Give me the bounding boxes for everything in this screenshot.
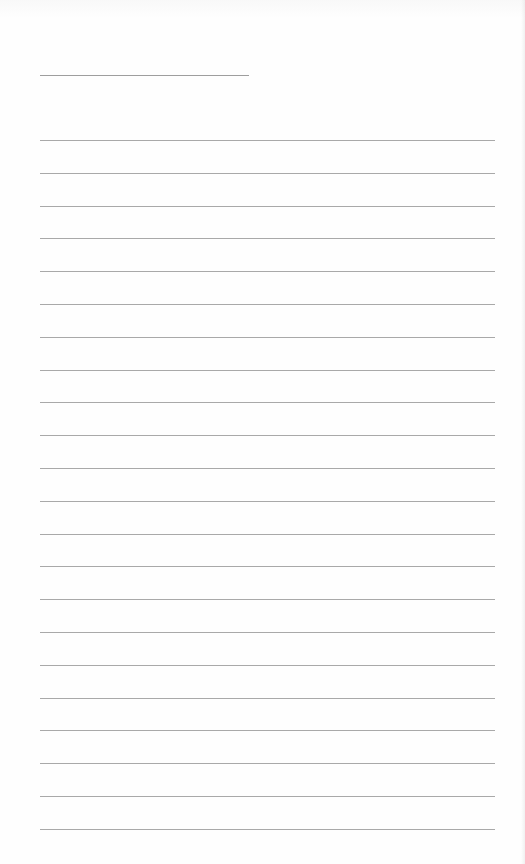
ruled-line — [40, 271, 495, 272]
note-line-field[interactable] — [40, 151, 495, 173]
note-line-field[interactable] — [40, 610, 495, 632]
note-line-field[interactable] — [40, 479, 495, 501]
ruled-line — [40, 501, 495, 502]
note-line-field[interactable] — [40, 544, 495, 566]
note-line-field[interactable] — [40, 315, 495, 337]
note-line-field[interactable] — [40, 380, 495, 402]
note-line-field[interactable] — [40, 676, 495, 698]
ruled-line — [40, 238, 495, 239]
ruled-line — [40, 566, 495, 567]
ruled-line — [40, 206, 495, 207]
ruled-line — [40, 435, 495, 436]
notepad-page — [0, 0, 525, 864]
note-line-field[interactable] — [40, 577, 495, 599]
ruled-line — [40, 665, 495, 666]
note-line-field[interactable] — [40, 512, 495, 534]
note-line-field[interactable] — [40, 282, 495, 304]
note-line-field[interactable] — [40, 413, 495, 435]
ruled-line — [40, 796, 495, 797]
ruled-line — [40, 173, 495, 174]
note-line-field[interactable] — [40, 708, 495, 730]
note-line-field[interactable] — [40, 118, 495, 140]
ruled-line — [40, 304, 495, 305]
ruled-line — [40, 730, 495, 731]
ruled-line — [40, 337, 495, 338]
note-line-field[interactable] — [40, 774, 495, 796]
ruled-line — [40, 599, 495, 600]
ruled-line — [40, 829, 495, 830]
ruled-line — [40, 370, 495, 371]
note-line-field[interactable] — [40, 184, 495, 206]
note-line-field[interactable] — [40, 216, 495, 238]
ruled-line — [40, 763, 495, 764]
page-top-edge — [0, 0, 525, 18]
note-line-field[interactable] — [40, 249, 495, 271]
title-rule — [40, 75, 249, 76]
ruled-line — [40, 468, 495, 469]
note-line-field[interactable] — [40, 348, 495, 370]
title-field[interactable] — [40, 56, 249, 74]
page-right-edge — [521, 0, 525, 864]
ruled-line — [40, 140, 495, 141]
note-line-field[interactable] — [40, 741, 495, 763]
ruled-line — [40, 534, 495, 535]
ruled-line — [40, 402, 495, 403]
note-line-field[interactable] — [40, 807, 495, 829]
ruled-line — [40, 632, 495, 633]
ruled-line — [40, 698, 495, 699]
note-line-field[interactable] — [40, 446, 495, 468]
note-line-field[interactable] — [40, 643, 495, 665]
